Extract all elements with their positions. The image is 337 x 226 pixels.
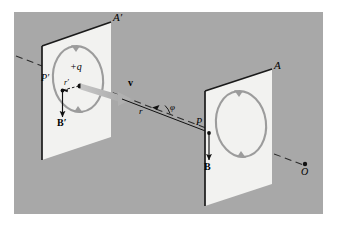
diagram-svg: [0, 0, 337, 226]
plane-a-group: [205, 69, 272, 206]
figure-root: A′ P′ +q r′ B′ v r φ A P B O: [0, 0, 337, 226]
diagram-canvas: [0, 0, 337, 226]
origin-point-dot: [303, 162, 307, 166]
plane-a-face: [205, 69, 272, 206]
